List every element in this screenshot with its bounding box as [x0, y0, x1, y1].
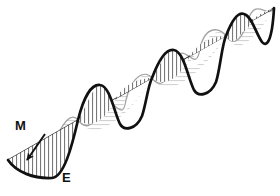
electric-field-label: E — [62, 170, 71, 185]
magnetic-field-label: M — [15, 118, 26, 133]
em-wave-canvas: M E — [0, 0, 280, 196]
em-wave-figure: M E — [0, 0, 280, 196]
